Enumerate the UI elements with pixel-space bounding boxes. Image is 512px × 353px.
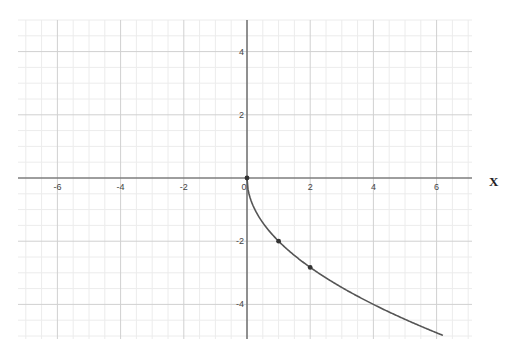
y-tick-label: -2 [236,236,244,246]
data-point [308,265,313,270]
x-tick-label: -2 [180,182,188,192]
x-tick-label: 6 [434,182,439,192]
x-tick-label: 0 [241,182,246,192]
x-tick-label: -4 [117,182,125,192]
y-tick-label: -4 [236,299,244,309]
x-axis-label: X [489,174,498,190]
x-tick-label: 2 [308,182,313,192]
x-tick-label: -6 [53,182,61,192]
y-tick-label: 2 [239,110,244,120]
data-point [276,239,281,244]
minor-grid [18,20,472,339]
y-tick-label: 4 [239,47,244,57]
function-plot: -6-4-2024642-2-4 [0,0,512,353]
x-tick-label: 4 [371,182,376,192]
data-point [245,176,250,181]
